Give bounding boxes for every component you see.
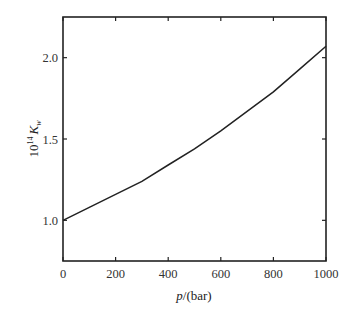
plot-frame: [63, 17, 326, 261]
y-axis: 1.01.52.0: [42, 51, 326, 228]
x-tick-label: 600: [211, 267, 230, 281]
x-tick-label: 200: [106, 267, 125, 281]
x-tick-label: 800: [264, 267, 283, 281]
x-tick-label: 0: [60, 267, 66, 281]
x-axis: 02004006008001000: [60, 17, 339, 281]
plot-area: [63, 17, 326, 261]
chart: 02004006008001000 1.01.52.0 p/(bar) 1014…: [0, 0, 353, 326]
y-axis-label: 1014Kw: [26, 120, 43, 158]
x-axis-label: p/(bar): [175, 288, 211, 303]
x-tick-label: 1000: [314, 267, 339, 281]
y-tick-label: 2.0: [42, 51, 58, 65]
y-tick-label: 1.5: [42, 133, 58, 147]
data-line: [63, 46, 326, 220]
y-tick-label: 1.0: [42, 214, 58, 228]
x-tick-label: 400: [159, 267, 178, 281]
